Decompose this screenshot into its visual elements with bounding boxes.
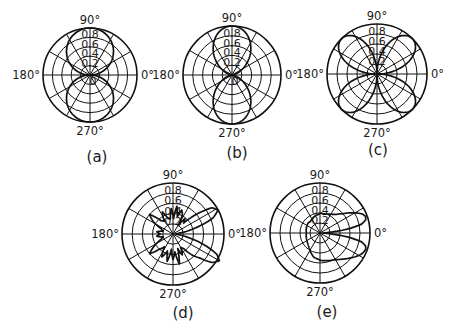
radial-tick-label: 0.8: [311, 184, 329, 197]
angle-label-90: 90°: [163, 168, 183, 182]
angle-label-180: 180°: [91, 227, 119, 241]
angle-label-270: 270°: [363, 126, 391, 140]
panel-caption: (a): [87, 148, 108, 166]
panel-caption: (c): [368, 141, 388, 159]
angle-label-270: 270°: [306, 285, 334, 299]
panel-caption: (e): [317, 303, 338, 321]
angle-label-90: 90°: [367, 9, 387, 23]
center-tick-label: 0: [90, 75, 97, 88]
polar-plot-e: 0.20.40.60.80°90°180°270°(e): [239, 168, 387, 321]
polar-plot-a: 0.20.40.60.800°90°180°270°(a): [12, 13, 154, 166]
angle-label-90: 90°: [310, 168, 330, 182]
angle-label-180: 180°: [12, 68, 40, 82]
angle-label-90: 90°: [222, 11, 242, 25]
angle-label-270: 270°: [76, 124, 104, 138]
polar-plot-c: 0.20.40.60.80°90°180°270°(c): [296, 9, 444, 159]
angle-label-90: 90°: [80, 13, 100, 27]
angle-label-0: 0°: [431, 67, 444, 81]
polar-plot-b: 0.20.40.60.800°90°180°270°(b): [152, 11, 298, 162]
angle-label-180: 180°: [239, 226, 267, 240]
angle-label-0: 0°: [374, 226, 387, 240]
angle-label-180: 180°: [152, 68, 180, 82]
polar-plot-d: 0.20.40.60.80°90°180°270°(d): [91, 168, 241, 322]
angle-label-270: 270°: [218, 126, 246, 140]
radial-tick-label: 0.8: [223, 27, 241, 40]
angle-label-270: 270°: [159, 287, 187, 301]
radial-tick-label: 0.8: [164, 184, 182, 197]
angle-label-180: 180°: [296, 67, 324, 81]
panel-caption: (b): [226, 144, 247, 162]
radial-tick-label: 0.8: [368, 25, 386, 38]
polar-figure: 0.20.40.60.800°90°180°270°(a) 0.20.40.60…: [0, 0, 456, 330]
radial-tick-label: 0.8: [81, 28, 99, 41]
panel-caption: (d): [172, 304, 193, 322]
